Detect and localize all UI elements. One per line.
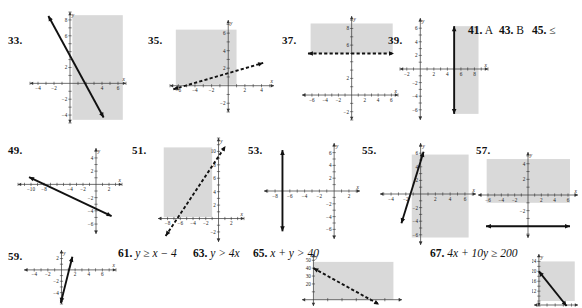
svg-text:−2: −2 [412, 205, 418, 211]
svg-text:−2: −2 [317, 193, 323, 199]
svg-text:2: 2 [540, 197, 543, 203]
svg-text:−4: −4 [412, 93, 418, 99]
svg-text:−4: −4 [302, 193, 308, 199]
svg-text:4: 4 [446, 71, 449, 77]
svg-text:x: x [484, 62, 488, 68]
text-answer-61: 61. y ≥ x − 4 [118, 247, 177, 259]
graph-49: xy−10−8−4−22−6−4−224 [16, 146, 124, 236]
svg-text:x: x [270, 78, 274, 84]
svg-text:y: y [352, 16, 356, 22]
svg-text:y: y [335, 143, 339, 149]
svg-text:−8: −8 [41, 186, 47, 192]
svg-text:2: 2 [65, 64, 68, 70]
svg-text:−10: −10 [27, 186, 36, 192]
graph-37: xy−6−4−2246−2268 [300, 14, 400, 122]
svg-text:y: y [421, 143, 425, 149]
svg-text:2: 2 [213, 202, 216, 208]
svg-text:4: 4 [87, 271, 90, 277]
svg-text:30: 30 [306, 273, 312, 279]
svg-text:−2: −2 [88, 195, 94, 201]
svg-text:4: 4 [329, 162, 332, 168]
svg-text:6: 6 [65, 33, 68, 39]
svg-text:4: 4 [523, 161, 526, 167]
svg-text:y: y [421, 18, 425, 24]
svg-text:−6: −6 [412, 107, 418, 113]
svg-text:−2: −2 [203, 220, 209, 226]
svg-text:20: 20 [306, 281, 312, 287]
svg-text:−6: −6 [287, 193, 293, 199]
svg-text:y: y [97, 148, 101, 154]
svg-text:−2: −2 [512, 197, 518, 203]
svg-text:6: 6 [390, 97, 393, 103]
svg-text:−4: −4 [31, 271, 37, 277]
svg-text:−4: −4 [62, 112, 68, 118]
svg-text:2: 2 [329, 175, 332, 181]
svg-text:−6: −6 [178, 220, 184, 226]
graph-55: xy−4−2246−6−4−2246 [378, 141, 478, 247]
svg-text:2: 2 [244, 87, 247, 93]
svg-text:x: x [240, 211, 244, 217]
svg-text:−8: −8 [272, 193, 278, 199]
text-answer-63: 63. y > 4x [193, 247, 240, 259]
svg-text:−4: −4 [326, 214, 332, 220]
svg-text:4: 4 [377, 97, 380, 103]
svg-text:−4: −4 [388, 196, 394, 202]
svg-text:−4: −4 [192, 87, 198, 93]
svg-text:2: 2 [230, 220, 233, 226]
exercise-number-59: 59. [8, 246, 22, 264]
svg-text:2: 2 [415, 52, 418, 58]
svg-text:40: 40 [306, 265, 312, 271]
svg-text:2: 2 [348, 193, 351, 199]
svg-text:x: x [356, 184, 360, 190]
svg-text:−2: −2 [404, 71, 410, 77]
svg-text:6: 6 [223, 30, 226, 36]
exercise-number-35: 35. [148, 30, 162, 48]
svg-text:−6: −6 [309, 97, 315, 103]
svg-text:x: x [472, 187, 476, 193]
svg-text:6: 6 [567, 197, 570, 203]
svg-text:2: 2 [91, 168, 94, 174]
svg-text:y: y [314, 254, 318, 260]
svg-text:−2: −2 [336, 97, 342, 103]
svg-text:6: 6 [101, 271, 104, 277]
svg-text:x: x [118, 177, 122, 183]
svg-text:x: x [112, 262, 116, 268]
svg-text:y: y [529, 152, 533, 158]
svg-text:6: 6 [415, 25, 418, 31]
graph-53: xy−8−6−4−22−6−4−2246 [262, 141, 362, 241]
graph-67: y12162024 [532, 252, 580, 308]
svg-text:−2: −2 [209, 87, 215, 93]
svg-text:−4: −4 [35, 85, 41, 91]
svg-text:−4: −4 [499, 197, 505, 203]
svg-text:−6: −6 [88, 221, 94, 227]
svg-text:−2: −2 [520, 208, 526, 214]
svg-text:x: x [122, 76, 126, 82]
svg-text:2: 2 [56, 255, 59, 261]
svg-text:x: x [574, 188, 578, 194]
svg-text:−2: −2 [412, 80, 418, 86]
svg-text:2: 2 [364, 97, 367, 103]
svg-text:2: 2 [223, 65, 226, 71]
svg-text:−2: −2 [210, 229, 216, 235]
svg-text:−2: −2 [220, 100, 226, 106]
graph-51: xy−8−6−4−22−2246810 [156, 136, 246, 244]
graph-65: y20304050 [300, 252, 404, 308]
svg-text:8: 8 [473, 71, 476, 77]
svg-text:2: 2 [523, 176, 526, 182]
svg-text:2: 2 [434, 196, 437, 202]
svg-text:−4: −4 [53, 290, 59, 296]
text-answer-41: 41. A [468, 24, 493, 36]
svg-text:24: 24 [532, 258, 537, 264]
text-answer-45: 45. ≤ [532, 24, 556, 36]
svg-text:6: 6 [117, 85, 120, 91]
svg-text:10: 10 [211, 148, 217, 154]
svg-text:6: 6 [415, 150, 418, 156]
svg-text:4: 4 [91, 155, 94, 161]
svg-text:20: 20 [532, 268, 537, 274]
svg-text:x: x [394, 88, 398, 94]
svg-text:50: 50 [306, 257, 312, 263]
svg-text:−4: −4 [412, 218, 418, 224]
svg-text:−4: −4 [88, 208, 94, 214]
svg-text:−4: −4 [67, 186, 73, 192]
graph-59: xy−4−2246−4−22 [22, 248, 118, 306]
